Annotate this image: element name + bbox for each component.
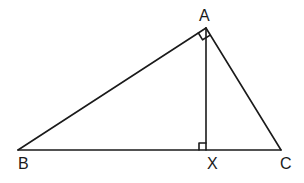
triangle-diagram: A B X C — [0, 0, 304, 183]
label-x: X — [207, 155, 218, 172]
right-angle-marker-a — [198, 33, 209, 40]
label-a: A — [199, 7, 210, 24]
segment-ac — [206, 28, 281, 150]
segment-ab — [18, 28, 206, 150]
right-angle-marker-x — [199, 143, 206, 150]
label-b: B — [18, 155, 29, 172]
label-c: C — [280, 155, 292, 172]
